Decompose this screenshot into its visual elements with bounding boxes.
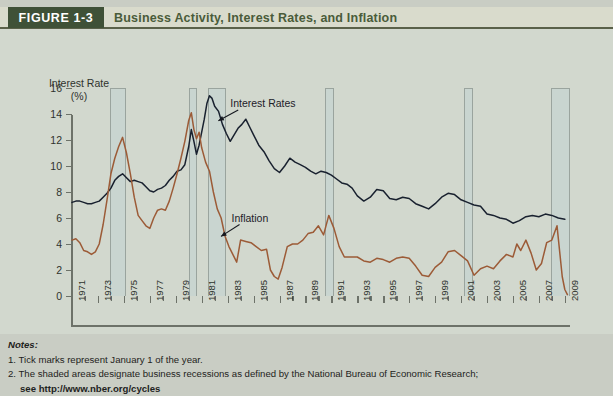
figure-root: FIGURE 1-3 Business Activity, Interest R…: [0, 0, 613, 396]
notes-heading: Notes:: [8, 338, 608, 351]
notes-item-2-url: see http://www.nber.org/cycles: [20, 382, 608, 395]
chart-series-layer: [0, 29, 613, 363]
series-line-inflation: [72, 113, 567, 295]
annotation-label-interest-rates: Interest Rates: [230, 97, 295, 109]
figure-number-badge: FIGURE 1-3: [8, 7, 104, 28]
notes-item-1: 1. Tick marks represent January 1 of the…: [8, 353, 608, 366]
figure-notes: Notes: 1. Tick marks represent January 1…: [8, 338, 608, 395]
series-line-interest-rates: [72, 96, 565, 223]
annotation-arrow-head: [221, 231, 227, 236]
annotation-label-inflation: Inflation: [232, 212, 269, 224]
chart-panel: Interest Rate (%) 0246810121416 19711973…: [0, 29, 613, 334]
figure-title: Business Activity, Interest Rates, and I…: [114, 7, 397, 28]
notes-item-2: 2. The shaded areas designate business r…: [8, 367, 608, 380]
